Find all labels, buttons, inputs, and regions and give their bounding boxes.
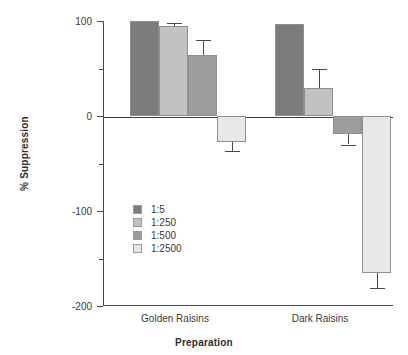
bar — [159, 26, 188, 116]
y-tick-label: -100 — [32, 206, 92, 217]
y-tick-label: 100 — [32, 16, 92, 27]
y-axis-title: % Suppression — [19, 94, 30, 214]
bar — [217, 116, 246, 142]
y-tick-minor — [99, 69, 103, 70]
error-bar-cap — [312, 69, 327, 70]
legend-label: 1:5 — [151, 204, 165, 215]
legend-swatch — [133, 205, 142, 214]
y-tick-label: 0 — [32, 111, 92, 122]
legend: 1:51:2501:5001:2500 — [133, 203, 182, 255]
bar — [362, 116, 391, 273]
error-bar-cap — [225, 151, 240, 152]
error-bar-stem — [348, 134, 349, 144]
x-axis-title: Preparation — [0, 337, 408, 348]
legend-item: 1:2500 — [133, 242, 182, 255]
legend-label: 1:250 — [151, 217, 176, 228]
y-tick-major — [97, 306, 103, 307]
bar — [304, 88, 333, 116]
error-bar-cap — [196, 40, 211, 41]
bar — [275, 24, 304, 116]
y-tick-label: -200 — [32, 301, 92, 312]
legend-label: 1:500 — [151, 230, 176, 241]
x-axis-line — [103, 305, 393, 306]
plot-area: 1000-100-200 Golden Raisins Dark Raisins — [103, 21, 393, 306]
legend-swatch — [133, 244, 142, 253]
error-bar-stem — [377, 273, 378, 288]
bar — [333, 116, 362, 134]
error-bar-cap — [167, 23, 182, 24]
y-tick-minor — [99, 164, 103, 165]
bar-chart-figure: % Suppression Preparation 1000-100-200 G… — [0, 0, 408, 355]
group-label-golden-raisins: Golden Raisins — [141, 313, 209, 324]
legend-item: 1:250 — [133, 216, 182, 229]
error-bar-stem — [203, 40, 204, 55]
legend-label: 1:2500 — [151, 243, 182, 254]
bar — [188, 55, 217, 116]
legend-swatch — [133, 218, 142, 227]
legend-swatch — [133, 231, 142, 240]
y-axis-line — [103, 21, 104, 306]
y-tick-major — [97, 116, 103, 117]
error-bar-cap — [341, 145, 356, 146]
legend-item: 1:500 — [133, 229, 182, 242]
group-label-dark-raisins: Dark Raisins — [292, 313, 349, 324]
error-bar-stem — [232, 142, 233, 152]
y-tick-major — [97, 211, 103, 212]
y-tick-minor — [99, 259, 103, 260]
y-tick-major — [97, 21, 103, 22]
bar — [130, 21, 159, 116]
error-bar-cap — [370, 288, 385, 289]
legend-item: 1:5 — [133, 203, 182, 216]
error-bar-stem — [319, 69, 320, 89]
